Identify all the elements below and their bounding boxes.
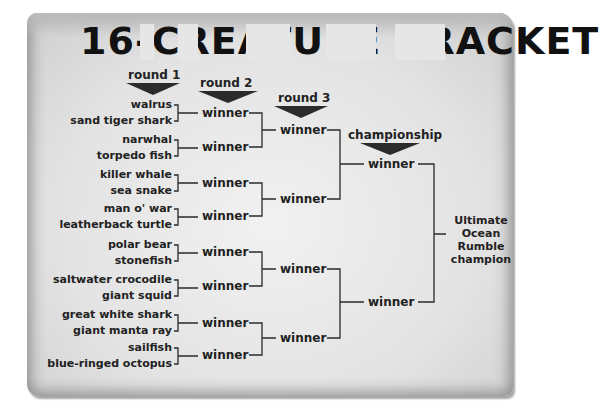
bracket-lines — [0, 0, 518, 417]
